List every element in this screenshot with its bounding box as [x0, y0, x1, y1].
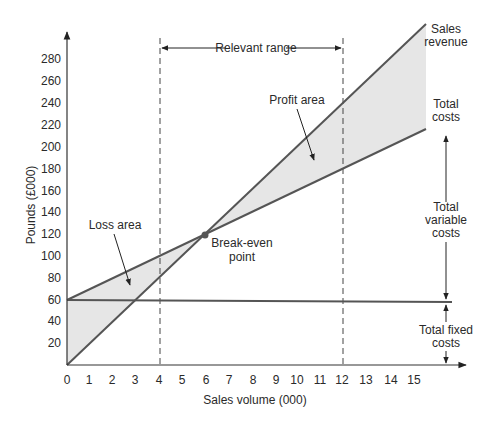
y-axis-title: Pounds (£000): [24, 166, 38, 245]
svg-text:180: 180: [41, 162, 61, 176]
loss-area-label: Loss area: [89, 218, 142, 232]
variable-costs-label-line3: costs: [432, 226, 460, 240]
svg-text:280: 280: [41, 52, 61, 66]
sales-revenue-label-line1: Sales: [431, 22, 461, 36]
break-even-label-line2: point: [229, 250, 256, 264]
profit-area-label: Profit area: [269, 93, 325, 107]
variable-costs-label-line1: Total: [433, 200, 458, 214]
svg-text:220: 220: [41, 118, 61, 132]
svg-text:7: 7: [226, 373, 233, 387]
svg-text:13: 13: [359, 373, 373, 387]
total-costs-label-line2: costs: [432, 110, 460, 124]
svg-text:140: 140: [41, 205, 61, 219]
relevant-range-label: Relevant range: [215, 41, 297, 55]
svg-text:6: 6: [203, 373, 210, 387]
svg-text:240: 240: [41, 96, 61, 110]
svg-text:3: 3: [132, 373, 139, 387]
svg-text:9: 9: [273, 373, 280, 387]
break-even-chart: 280 260 240 220 200 180 160 140 120 100 …: [0, 0, 493, 421]
svg-text:15: 15: [407, 373, 421, 387]
total-costs-line: [67, 129, 426, 300]
svg-text:20: 20: [48, 336, 62, 350]
svg-text:14: 14: [384, 373, 398, 387]
svg-text:40: 40: [48, 314, 62, 328]
sales-revenue-line: [67, 24, 426, 365]
x-tick-labels: 0 1 2 3 4 5 6 7 8 9 10 11 12 13 14 15: [64, 373, 421, 387]
break-even-marker: [202, 232, 209, 239]
svg-text:160: 160: [41, 184, 61, 198]
svg-text:260: 260: [41, 74, 61, 88]
svg-text:120: 120: [41, 227, 61, 241]
svg-text:2: 2: [109, 373, 116, 387]
svg-text:0: 0: [64, 373, 71, 387]
svg-text:60: 60: [48, 293, 62, 307]
svg-text:80: 80: [48, 271, 62, 285]
svg-text:11: 11: [314, 373, 327, 387]
x-axis-title: Sales volume (000): [203, 393, 306, 407]
svg-text:1: 1: [86, 373, 93, 387]
svg-text:12: 12: [335, 373, 349, 387]
svg-text:10: 10: [290, 373, 304, 387]
svg-text:5: 5: [179, 373, 186, 387]
sales-revenue-label-line2: revenue: [424, 35, 468, 49]
svg-text:100: 100: [41, 249, 61, 263]
svg-text:4: 4: [156, 373, 163, 387]
fixed-costs-label-line1: Total fixed: [419, 323, 473, 337]
svg-text:8: 8: [250, 373, 257, 387]
break-even-label-line1: Break-even: [211, 236, 272, 250]
svg-text:200: 200: [41, 140, 61, 154]
variable-costs-label-line2: variable: [425, 213, 467, 227]
y-tick-labels: 280 260 240 220 200 180 160 140 120 100 …: [41, 52, 61, 350]
total-costs-label-line1: Total: [433, 97, 458, 111]
fixed-costs-label-line2: costs: [432, 336, 460, 350]
